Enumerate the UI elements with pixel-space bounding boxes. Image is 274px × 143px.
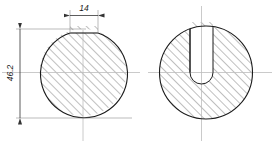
dim-height-label: 46.2 — [5, 64, 15, 81]
dim-width-label: 14 — [79, 3, 89, 13]
left-view-hatch — [36, 26, 132, 120]
right-view-group — [148, 6, 272, 141]
left-view-group — [2, 26, 140, 141]
right-view-hatch — [156, 22, 256, 124]
drawing-svg: 46.2 14 — [0, 0, 274, 143]
technical-drawing-canvas: 46.2 14 — [0, 0, 274, 143]
